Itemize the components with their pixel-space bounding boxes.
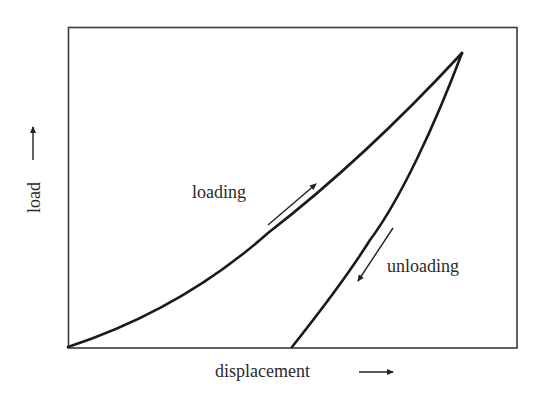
y-axis-label: load [24, 182, 44, 213]
loading-label: loading [192, 182, 246, 202]
plot-frame [69, 28, 518, 349]
x-axis-label: displacement [215, 361, 310, 381]
unloading-label: unloading [387, 256, 459, 276]
loading-curve [68, 53, 462, 347]
unloading-curve [292, 53, 462, 347]
loading-direction-arrow-icon [268, 184, 316, 225]
load-displacement-diagram: loading unloading displacement load [0, 0, 541, 399]
